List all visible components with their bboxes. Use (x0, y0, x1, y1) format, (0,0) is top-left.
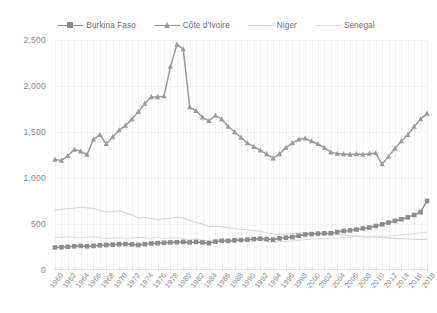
data-point-marker (258, 236, 263, 241)
series-niger (55, 207, 427, 239)
data-point-marker (328, 231, 333, 236)
x-axis-tick-mark (68, 267, 69, 271)
square-marker-icon (57, 21, 83, 30)
data-point-marker (155, 241, 160, 246)
data-point-marker (219, 238, 224, 243)
series-burkina-faso (53, 199, 430, 250)
data-point-marker (271, 237, 276, 242)
data-point-marker (393, 219, 398, 224)
data-point-marker (142, 242, 147, 247)
data-point-marker (354, 227, 359, 232)
data-point-marker (104, 243, 109, 248)
data-point-marker (309, 232, 314, 237)
x-axis-tick-mark (81, 267, 82, 271)
data-point-marker (316, 231, 321, 236)
legend-item-senegal[interactable]: Senegal (315, 21, 375, 30)
chart-legend: Burkina Faso Côte d'Ivoire Niger Senegal (0, 17, 432, 33)
data-point-marker (386, 220, 391, 225)
data-point-marker (78, 244, 83, 249)
x-axis-tick-mark (273, 267, 274, 271)
data-point-marker (187, 104, 192, 109)
legend-label: Senegal (344, 21, 375, 30)
legend-item-niger[interactable]: Niger (248, 21, 297, 30)
x-axis-tick-mark (363, 267, 364, 271)
x-axis-tick-mark (401, 267, 402, 271)
data-point-marker (335, 230, 340, 235)
data-point-marker (405, 215, 410, 220)
data-point-marker (53, 245, 58, 250)
data-point-marker (348, 228, 353, 233)
legend-item-burkina-faso[interactable]: Burkina Faso (57, 21, 135, 30)
data-point-marker (418, 210, 423, 215)
data-point-marker (207, 241, 212, 246)
x-axis-tick-mark (312, 267, 313, 271)
data-point-marker (130, 242, 135, 247)
x-axis-tick-mark (209, 267, 210, 271)
legend-label: Niger (277, 21, 297, 30)
data-point-marker (117, 242, 122, 247)
data-point-marker (290, 235, 295, 240)
y-axis-tick-label: 1,000 (23, 173, 46, 183)
x-axis-tick-mark (55, 267, 56, 271)
y-axis-tick-label: 2,000 (23, 81, 46, 91)
series-line (55, 45, 427, 165)
data-point-marker (72, 244, 77, 249)
data-point-marker (226, 239, 231, 244)
data-point-marker (181, 240, 186, 245)
x-axis-tick-mark (132, 267, 133, 271)
data-point-marker (97, 132, 102, 137)
data-point-marker (149, 241, 154, 246)
x-axis-tick-mark (196, 267, 197, 271)
data-point-marker (136, 243, 141, 248)
x-axis-tick-mark (235, 267, 236, 271)
data-point-marker (85, 244, 90, 249)
plot-area (55, 40, 427, 270)
x-axis-tick-mark (93, 267, 94, 271)
legend-label: Côte d'Ivoire (183, 21, 230, 30)
data-point-marker (284, 235, 289, 240)
x-axis-tick-mark (389, 267, 390, 271)
data-point-marker (110, 242, 115, 247)
data-point-marker (162, 240, 167, 245)
x-axis-tick-mark (183, 267, 184, 271)
series-c-te-d-ivoire (52, 42, 429, 167)
x-axis-tick-mark (247, 267, 248, 271)
x-axis-tick-label: 2018 (420, 271, 437, 290)
x-axis-tick-mark (145, 267, 146, 271)
data-point-marker (361, 226, 366, 231)
data-point-marker (174, 42, 179, 47)
x-axis-tick-mark (286, 267, 287, 271)
data-point-marker (123, 242, 128, 247)
legend-item-cote-divoire[interactable]: Côte d'Ivoire (154, 21, 230, 30)
data-point-marker (425, 199, 430, 204)
line-marker-icon (315, 21, 341, 30)
data-point-marker (168, 240, 173, 245)
data-point-marker (399, 217, 404, 222)
data-point-marker (213, 239, 218, 244)
x-axis-tick-mark (324, 267, 325, 271)
data-point-marker (175, 240, 180, 245)
data-point-marker (232, 238, 237, 243)
series-line (55, 207, 427, 239)
x-axis-tick-mark (337, 267, 338, 271)
x-axis-tick-mark (376, 267, 377, 271)
x-axis-tick-mark (106, 267, 107, 271)
x-axis-tick-mark (299, 267, 300, 271)
data-point-marker (252, 237, 257, 242)
data-point-marker (98, 243, 103, 248)
data-point-marker (200, 240, 205, 245)
data-point-marker (303, 232, 308, 237)
data-point-marker (59, 245, 64, 250)
y-axis-tick-label: 0 (41, 265, 46, 275)
data-point-marker (264, 237, 269, 242)
x-axis-tick-mark (222, 267, 223, 271)
data-point-marker (424, 111, 429, 116)
data-point-marker (412, 213, 417, 218)
y-axis: 05001,0001,5002,0002,500 (0, 40, 52, 270)
x-axis-tick-mark (260, 267, 261, 271)
x-axis-tick-mark (119, 267, 120, 271)
data-point-marker (168, 64, 173, 69)
data-point-marker (187, 240, 192, 245)
y-axis-tick-label: 500 (31, 219, 46, 229)
data-point-marker (277, 236, 282, 241)
